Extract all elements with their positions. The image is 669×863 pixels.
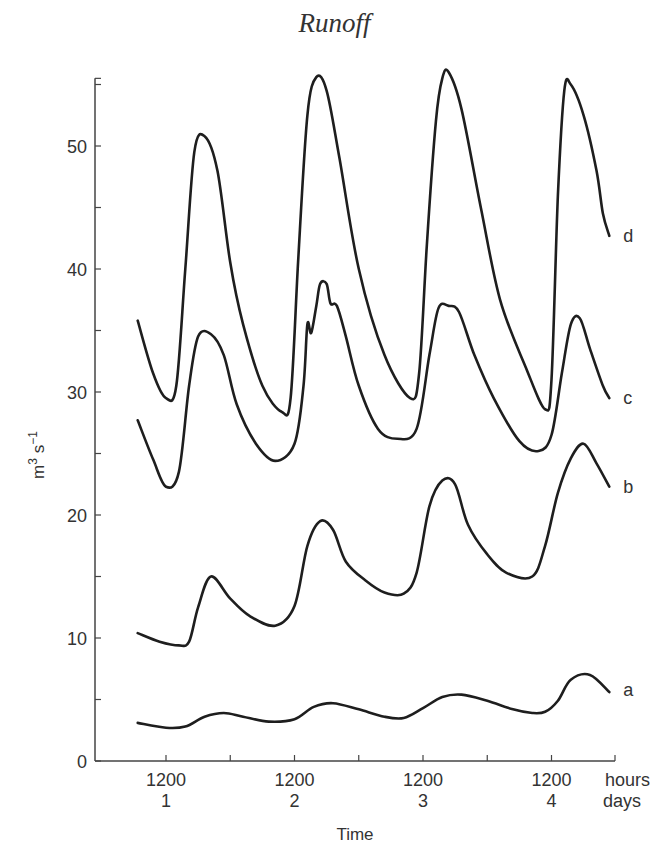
series-group: abcd (138, 70, 635, 728)
x-tick-label-hour: 1200 (274, 770, 314, 790)
y-tick-label: 50 (67, 137, 87, 157)
series-label-b: b (623, 477, 633, 497)
x-tick-label-day: 3 (418, 791, 428, 811)
x-axis-title: Time (336, 825, 373, 844)
series-line-c (138, 281, 610, 487)
series-line-b (138, 444, 610, 646)
y-tick-label: 20 (67, 506, 87, 526)
series-line-a (138, 674, 610, 728)
x-tick-label-hour: 1200 (531, 770, 571, 790)
y-tick-label: 0 (77, 752, 87, 772)
x-tick-label-day: 2 (289, 791, 299, 811)
x-unit-hours: hours (605, 770, 650, 790)
series-label-c: c (623, 388, 632, 408)
y-tick-label: 30 (67, 383, 87, 403)
series-label-d: d (623, 226, 633, 246)
axes: 0102030405012001120021200312004 (67, 78, 615, 811)
y-tick-label: 10 (67, 629, 87, 649)
runoff-chart: 0102030405012001120021200312004 abcd m3 … (0, 0, 669, 863)
y-axis-title: m3 s−1 (26, 431, 48, 479)
y-tick-label: 40 (67, 260, 87, 280)
x-tick-label-day: 4 (546, 791, 556, 811)
x-unit-days: days (603, 791, 641, 811)
series-label-a: a (623, 680, 634, 700)
x-tick-label-hour: 1200 (146, 770, 186, 790)
series-line-d (138, 70, 610, 416)
x-tick-label-hour: 1200 (403, 770, 443, 790)
x-tick-label-day: 1 (161, 791, 171, 811)
